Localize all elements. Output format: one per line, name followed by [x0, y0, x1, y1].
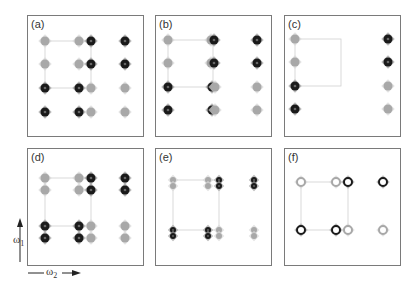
axes-arrows — [0, 0, 413, 286]
omega2-label: ω2 — [46, 265, 57, 280]
omega2-subscript: 2 — [53, 271, 57, 280]
omega1-label: ω1 — [13, 233, 24, 248]
omega1-subscript: 1 — [20, 239, 24, 248]
